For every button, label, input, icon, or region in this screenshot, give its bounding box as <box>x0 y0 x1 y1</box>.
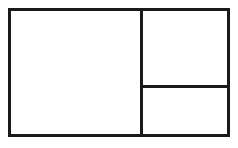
vertical-divider <box>140 8 143 137</box>
panel-right-top <box>143 11 227 85</box>
horizontal-divider <box>140 85 230 88</box>
panel-left-large <box>11 11 140 134</box>
panel-right-bottom <box>143 88 227 134</box>
